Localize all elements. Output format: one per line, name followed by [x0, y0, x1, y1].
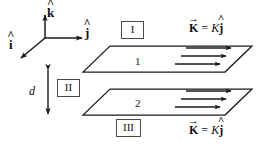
sheet-1-j-direction: ^j	[219, 21, 223, 35]
sheet-1-outline	[83, 46, 252, 72]
sheet-2-outline	[83, 89, 252, 115]
sheet-1-number: 1	[135, 56, 141, 67]
sheet-2-plane	[83, 89, 252, 115]
axis-label-j: ^j	[85, 26, 89, 39]
j-hat-icon: ^	[218, 13, 225, 24]
separation-label-d: d	[29, 85, 35, 97]
region-label-I: I	[121, 21, 144, 39]
sheet-2-current-label: →K = K^j	[189, 124, 223, 136]
sheet-2-number: 2	[135, 98, 141, 109]
sheet-2-equals: =	[198, 123, 211, 137]
axis-label-i: ^i	[9, 38, 13, 51]
sheet-1-current-arrows	[175, 48, 231, 64]
region-label-II: II	[57, 79, 80, 97]
k-hat-icon: ^	[47, 0, 54, 9]
current-sheets-diagram: ^k ^j ^i I II III 1 2 d →K = K^j →K = K^…	[0, 0, 260, 150]
vector-arrow-icon: →	[188, 14, 198, 24]
sheet-2-K-vector-symbol: →K	[189, 123, 198, 137]
sheet-1-plane	[83, 46, 252, 72]
axis-label-k: ^k	[47, 6, 54, 19]
j-hat-icon: ^	[218, 115, 225, 126]
sheet-2-current-arrows	[175, 91, 231, 107]
sheet-2-j-direction: ^j	[219, 123, 223, 137]
vector-arrow-icon: →	[188, 116, 198, 126]
coordinate-axes	[21, 15, 82, 58]
axis-i-line	[21, 38, 45, 58]
region-label-III: III	[116, 119, 141, 137]
j-hat-icon: ^	[84, 17, 91, 29]
sheet-1-equals: =	[198, 21, 211, 35]
sheet-1-K-vector-symbol: →K	[189, 21, 198, 35]
sheet-1-current-label: →K = K^j	[189, 22, 223, 34]
i-hat-icon: ^	[7, 29, 14, 41]
